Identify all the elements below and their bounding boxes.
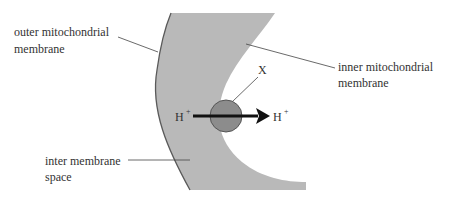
outer-membrane-label-1: outer mitochondrial (14, 25, 110, 39)
space-label-1: inter membrane (45, 154, 121, 168)
proton-right-label: H (273, 110, 282, 124)
x-leader (232, 77, 258, 102)
space-label-2: space (45, 170, 72, 184)
inner-membrane-label-2: membrane (338, 76, 389, 90)
outer-membrane-label-2: membrane (14, 42, 65, 56)
proton-left-label: H (175, 110, 184, 124)
proton-left-charge: + (186, 107, 191, 116)
outer-membrane-leader (118, 37, 158, 52)
mitochondria-diagram: outer mitochondrial membrane inner mitoc… (0, 0, 451, 201)
proton-right-charge: + (284, 107, 289, 116)
inner-membrane-label-1: inner mitochondrial (338, 60, 434, 74)
protein-x-label: X (258, 63, 267, 77)
proton-arrow-head (256, 108, 270, 124)
